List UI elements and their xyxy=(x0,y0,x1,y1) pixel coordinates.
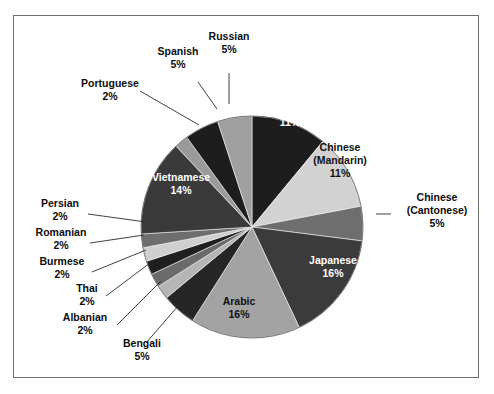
pie-chart: Korean 11% Chinese (Mandarin) 11% Japane… xyxy=(0,0,494,394)
chart-page: Korean 11% Chinese (Mandarin) 11% Japane… xyxy=(0,0,494,394)
slice-label-arabic: Arabic xyxy=(223,295,256,307)
slice-label-vietnamese: Vietnamese xyxy=(152,171,210,183)
leader-line-albanian xyxy=(117,281,161,325)
callout-value-albanian: 2% xyxy=(77,324,93,336)
callout-value-burmese: 2% xyxy=(54,268,70,280)
callout-label-albanian: Albanian xyxy=(63,311,107,323)
callout-label-russian: Russian xyxy=(209,30,250,42)
callout-value-thai: 2% xyxy=(79,295,95,307)
leader-line-portuguese xyxy=(140,91,199,125)
slice-label-chinese-mandarin-line1: Chinese xyxy=(320,141,361,153)
callout-label-spanish: Spanish xyxy=(158,45,199,57)
leader-line-thai xyxy=(106,263,150,296)
callout-value-bengali: 5% xyxy=(134,350,150,362)
callout-label-portuguese: Portuguese xyxy=(81,77,139,89)
slice-label-chinese-mandarin-line2: (Mandarin) xyxy=(313,154,367,166)
leader-line-persian xyxy=(88,214,146,222)
slice-value-japanese: 16% xyxy=(322,267,344,279)
callout-label-romanian: Romanian xyxy=(36,226,87,238)
callout-label-chinese-cantonese-line1: Chinese xyxy=(417,191,458,203)
callout-label-bengali: Bengali xyxy=(123,337,161,349)
callout-value-russian: 5% xyxy=(221,43,237,55)
callout-value-portuguese: 2% xyxy=(102,90,118,102)
slice-value-arabic: 16% xyxy=(228,308,250,320)
slice-value-vietnamese: 14% xyxy=(170,184,192,196)
leader-line-spanish xyxy=(198,82,217,109)
callout-value-chinese-cantonese: 5% xyxy=(429,217,445,229)
slice-value-korean: 11% xyxy=(280,116,301,128)
callout-label-chinese-cantonese-line2: (Cantonese) xyxy=(407,204,468,216)
leader-line-romanian xyxy=(90,235,144,243)
callout-value-romanian: 2% xyxy=(53,239,69,251)
callout-label-thai: Thai xyxy=(76,282,98,294)
slice-label-japanese: Japanese xyxy=(309,254,357,266)
callout-value-spanish: 5% xyxy=(170,58,186,70)
slice-value-chinese-mandarin: 11% xyxy=(330,167,351,179)
callout-label-burmese: Burmese xyxy=(40,255,85,267)
callout-label-persian: Persian xyxy=(41,197,79,209)
callout-value-persian: 2% xyxy=(52,210,68,222)
leader-line-burmese xyxy=(92,250,146,272)
slice-label-korean: Korean xyxy=(272,103,308,115)
